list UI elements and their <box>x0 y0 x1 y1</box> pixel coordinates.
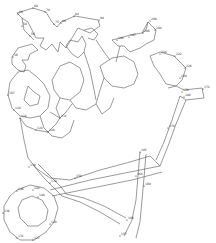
dot-number: 136 <box>4 209 10 213</box>
dot-number: 180 <box>185 93 191 97</box>
dot-number: 90 <box>100 16 104 20</box>
dot-number: 146 <box>18 187 24 191</box>
dot-number: 36 <box>14 53 18 57</box>
dot-number: 229 <box>181 74 187 78</box>
dot-number: 169 <box>145 182 151 186</box>
dot-number: 218 <box>161 50 167 54</box>
dot-number: 226 <box>186 64 192 68</box>
dot-number: 70 <box>46 8 50 12</box>
dot-number: 204 <box>156 26 162 30</box>
dot-number: 160 <box>128 216 134 220</box>
dot-number: 127 <box>34 236 40 240</box>
dot-number: 80 <box>62 19 66 23</box>
dot-number: 139 <box>30 163 36 167</box>
dot-number: 185 <box>141 148 147 152</box>
dot-number: 131 <box>18 234 24 238</box>
dot-number: 142 <box>34 186 40 190</box>
dot-number: 178 <box>51 179 57 183</box>
dot-number: 107 <box>9 91 15 95</box>
dot-number: 148 <box>39 193 45 197</box>
flower-basket-drawing: 6870605856758084902082042001971942182222… <box>0 0 216 243</box>
dot-number: 56 <box>31 32 35 36</box>
dot-number: 176 <box>183 88 189 92</box>
dot-number: 114 <box>21 114 27 118</box>
dot-number: 84 <box>75 12 79 16</box>
dot-number: 131 <box>61 114 67 118</box>
dot-number: 128 <box>49 128 55 132</box>
dot-number: 124 <box>37 126 43 130</box>
dot-number: 150 <box>76 174 82 178</box>
dot-number: 172 <box>204 85 210 89</box>
dot-number: 120 <box>51 220 57 224</box>
dot-number: 200 <box>144 29 150 33</box>
dot-number: 58 <box>23 22 27 26</box>
dot-number: 222 <box>176 52 182 56</box>
dot-number: 75 <box>55 20 59 24</box>
dot-number: 60 <box>19 10 23 14</box>
dot-number: 208 <box>151 17 157 21</box>
dot-number: 194 <box>118 36 124 40</box>
dot-number: 170 <box>169 124 175 128</box>
dot-number: 197 <box>130 33 136 37</box>
dot-number: 68 <box>34 4 38 8</box>
dot-number: 110 <box>15 106 21 110</box>
flower-outline <box>17 8 100 52</box>
dot-to-dot-canvas: 6870605856758084902082042001971942182222… <box>0 0 216 243</box>
dot-number: 157 <box>121 232 127 236</box>
dot-number: 164 <box>137 172 143 176</box>
